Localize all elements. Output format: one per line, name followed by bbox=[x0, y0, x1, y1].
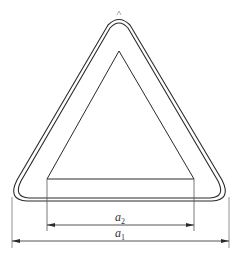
inner-triangle bbox=[47, 51, 194, 179]
arrowhead-left-icon bbox=[12, 239, 20, 243]
apex-mark bbox=[117, 11, 121, 15]
sign-dimension-diagram: a2 a1 bbox=[0, 0, 239, 259]
dimension-a2: a2 bbox=[47, 210, 194, 227]
outer-border bbox=[14, 20, 226, 202]
dimension-a1: a1 bbox=[12, 226, 229, 243]
arrowhead-right-icon bbox=[221, 239, 229, 243]
dimension-a1-label: a1 bbox=[115, 226, 125, 242]
arrowhead-right-icon bbox=[186, 223, 194, 227]
dimension-a2-label: a2 bbox=[115, 210, 125, 226]
arrowhead-left-icon bbox=[47, 223, 55, 227]
